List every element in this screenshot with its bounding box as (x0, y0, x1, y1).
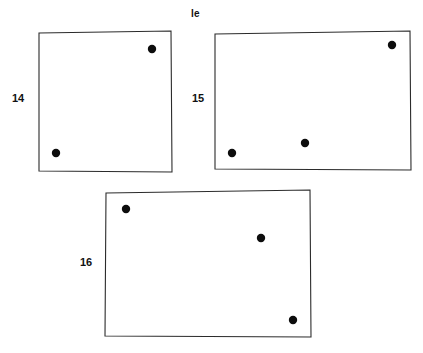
14-dot-top-right (148, 45, 156, 53)
panel-group-14 (39, 31, 172, 172)
16-dot-middle-right (257, 234, 265, 242)
panel-group-16 (105, 190, 311, 337)
panel-rectangle-15 (215, 31, 411, 170)
16-dot-bottom-right (289, 316, 297, 324)
figure-canvas: le 14 15 16 (0, 0, 423, 353)
15-dot-bottom-left (228, 149, 236, 157)
15-dot-middle (301, 139, 309, 147)
14-dot-bottom-left (52, 149, 60, 157)
panel-graphics-layer (0, 0, 423, 353)
panel-group-15 (215, 31, 411, 170)
15-dot-top-right (388, 41, 396, 49)
panel-rectangle-16 (105, 190, 311, 337)
16-dot-top-left (122, 205, 130, 213)
